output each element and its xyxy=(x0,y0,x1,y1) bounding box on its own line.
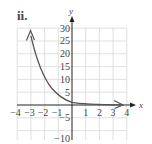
svg-text:1: 1 xyxy=(83,107,88,118)
curve-left-arrow-icon xyxy=(27,31,35,41)
y-axis-arrow-icon xyxy=(70,16,75,22)
svg-text:−10: −10 xyxy=(54,133,70,144)
svg-text:2: 2 xyxy=(97,107,102,118)
svg-text:15: 15 xyxy=(60,61,70,72)
exponential-decay-chart: x y 30 25 20 15 10 5 −5 −10 −4 −3 −2 −1 … xyxy=(0,0,152,144)
svg-text:30: 30 xyxy=(60,23,70,34)
x-axis-label: x xyxy=(138,100,143,110)
svg-text:4: 4 xyxy=(124,107,129,118)
svg-text:20: 20 xyxy=(60,48,70,59)
svg-text:−2: −2 xyxy=(38,107,49,118)
svg-text:−4: −4 xyxy=(10,107,21,118)
svg-text:10: 10 xyxy=(60,74,70,85)
svg-text:−3: −3 xyxy=(24,107,35,118)
x-axis-arrow-icon xyxy=(130,103,136,108)
svg-text:−1: −1 xyxy=(52,107,63,118)
svg-text:5: 5 xyxy=(65,87,70,98)
svg-text:25: 25 xyxy=(60,35,70,46)
y-axis-label: y xyxy=(68,6,73,16)
